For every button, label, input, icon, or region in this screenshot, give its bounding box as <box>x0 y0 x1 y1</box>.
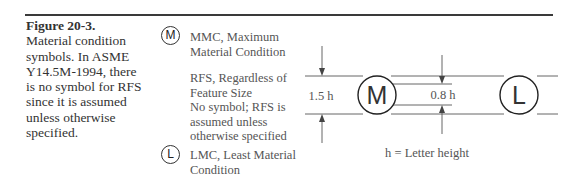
outer-dimension-label: 1.5 h <box>309 89 335 103</box>
symbol-size-diagram: M L 1.5 h 0.8 h h = Letter height <box>0 0 579 179</box>
diagram-m-glyph: M <box>367 81 388 109</box>
inner-dimension-label: 0.8 h <box>431 88 457 102</box>
diagram-l-glyph: L <box>512 81 526 109</box>
letter-height-legend: h = Letter height <box>385 146 469 160</box>
